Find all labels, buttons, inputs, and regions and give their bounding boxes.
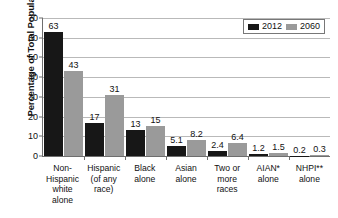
bar-2012[interactable]: 5.1 (167, 146, 186, 156)
bar-value-label: 1.2 (252, 144, 265, 153)
x-axis-label-line: races (208, 184, 247, 195)
x-axis-labels: Non-HispanicwhitealoneHispanic(of anyrac… (42, 163, 330, 205)
bar-group: 1315 (125, 18, 166, 156)
bar-group: 0.20.3 (289, 18, 330, 156)
x-axis-label-line: AIAN* (249, 163, 288, 174)
bar-value-label: 15 (150, 116, 160, 125)
legend-item-2012[interactable]: 2012 (248, 22, 282, 31)
bar-group: 1731 (84, 18, 125, 156)
bar-group: 6343 (43, 18, 84, 156)
y-tick-label: 0 (33, 151, 38, 161)
bar-2060[interactable]: 1.5 (269, 153, 288, 156)
x-axis-label: Hispanic(of anyrace) (83, 163, 124, 205)
bar-2060[interactable]: 15 (146, 126, 165, 156)
legend-swatch-icon-2060 (286, 24, 297, 30)
x-axis-label: Non-Hispanicwhitealone (42, 163, 83, 205)
x-axis-label-line: Hispanic (84, 163, 123, 174)
bar-group: 2.46.4 (207, 18, 248, 156)
x-axis-label: AIAN*alone (248, 163, 289, 205)
plot-area: 010203040506070 6343173113155.18.22.46.4… (42, 18, 330, 157)
x-axis-label-line: Black (125, 163, 164, 174)
legend: 2012 2060 (243, 19, 325, 34)
y-tick-label: 40 (28, 72, 38, 82)
x-axis-label-line: more (208, 174, 247, 185)
x-axis-label-line: Asian (166, 163, 205, 174)
bar-2012[interactable]: 1.2 (249, 154, 268, 156)
bar-value-label: 0.3 (313, 145, 326, 154)
y-tick-label: 50 (28, 52, 38, 62)
x-axis-label: Blackalone (124, 163, 165, 205)
x-axis-label-line: (of any (84, 174, 123, 185)
bar-2060[interactable]: 8.2 (187, 140, 206, 156)
legend-swatch-icon-2012 (248, 24, 259, 30)
bar-value-label: 13 (130, 120, 140, 129)
legend-label-2060: 2060 (300, 22, 320, 31)
x-axis-label-line: alone (290, 174, 329, 185)
bar-value-label: 43 (68, 61, 78, 70)
bar-2012[interactable]: 17 (85, 123, 104, 157)
bar-2012[interactable]: 13 (126, 130, 145, 156)
y-tick-label: 30 (28, 92, 38, 102)
y-tick-label: 10 (28, 131, 38, 141)
bar-group: 1.21.5 (248, 18, 289, 156)
bar-2060[interactable]: 43 (64, 71, 83, 156)
bar-group: 5.18.2 (166, 18, 207, 156)
bar-value-label: 8.2 (190, 130, 203, 139)
x-axis-label-line: race) (84, 184, 123, 195)
x-axis-label-line: alone (166, 174, 205, 185)
bar-2012[interactable]: 63 (44, 32, 63, 156)
bar-2012[interactable]: 2.4 (208, 151, 227, 156)
bar-chart: Percentage of Total Population 010203040… (0, 0, 338, 218)
x-axis-label-line: Hispanic (43, 174, 82, 185)
x-axis-label-line: NHPI** (290, 163, 329, 174)
bar-value-label: 1.5 (272, 143, 285, 152)
x-axis-label: NHPI**alone (289, 163, 330, 205)
y-tick-label: 70 (28, 13, 38, 23)
x-axis-label-line: alone (125, 174, 164, 185)
x-axis-label: Two ormoreraces (207, 163, 248, 205)
bar-value-label: 0.2 (293, 146, 306, 155)
bar-value-label: 63 (48, 22, 58, 31)
bar-2060[interactable]: 31 (105, 95, 124, 156)
legend-item-2060[interactable]: 2060 (286, 22, 320, 31)
legend-label-2012: 2012 (262, 22, 282, 31)
bar-value-label: 2.4 (211, 141, 224, 150)
bar-value-label: 31 (109, 85, 119, 94)
x-axis-label-line: Two or (208, 163, 247, 174)
y-tick-label: 20 (28, 112, 38, 122)
x-axis-label: Asianalone (165, 163, 206, 205)
bar-value-label: 5.1 (170, 136, 183, 145)
x-axis-label-line: Non- (43, 163, 82, 174)
bar-groups: 6343173113155.18.22.46.41.21.50.20.3 (43, 18, 330, 156)
y-tick-label: 60 (28, 33, 38, 43)
bar-2060[interactable]: 6.4 (228, 143, 247, 156)
x-axis-label-line: alone (43, 195, 82, 206)
bar-value-label: 17 (89, 113, 99, 122)
bar-2060[interactable]: 0.3 (310, 155, 329, 156)
x-axis-label-line: white (43, 184, 82, 195)
x-axis-label-line: alone (249, 174, 288, 185)
bar-value-label: 6.4 (231, 133, 244, 142)
